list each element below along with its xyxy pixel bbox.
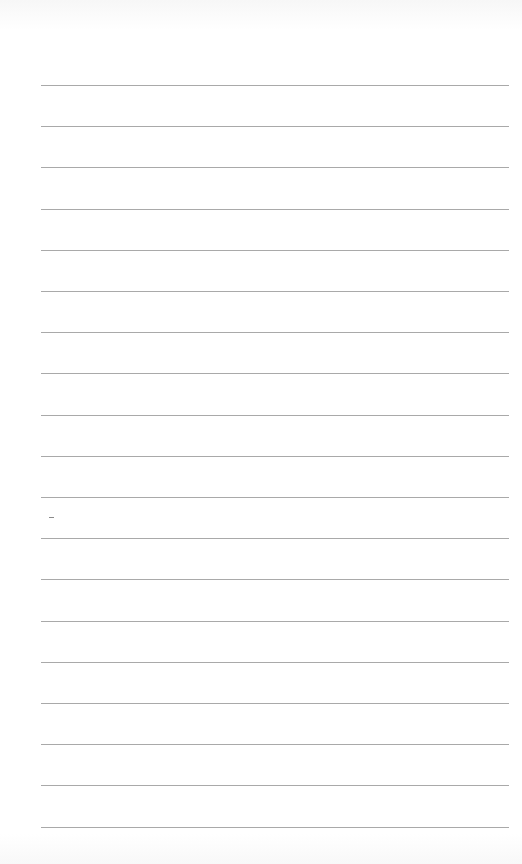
ruled-line [41,415,509,416]
ruled-line [41,250,509,251]
ruled-line [41,744,509,745]
ruled-line [41,456,509,457]
ruled-line [41,332,509,333]
ruled-line [41,579,509,580]
ruled-line [41,703,509,704]
ruled-line [41,85,509,86]
ruled-line [41,291,509,292]
ruled-line [41,167,509,168]
ruled-line [41,827,509,828]
ruled-line [41,785,509,786]
ruled-line [41,497,509,498]
ruled-line [41,662,509,663]
ruled-line [41,126,509,127]
ruled-line [41,209,509,210]
ruled-line [41,621,509,622]
ruled-line [41,538,509,539]
ruled-line [41,373,509,374]
stray-mark [49,517,54,518]
lined-page [0,0,522,864]
